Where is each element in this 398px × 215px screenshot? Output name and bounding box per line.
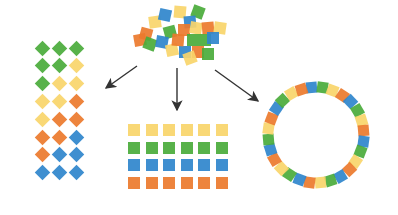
grid-tile	[216, 124, 228, 136]
grid-tile	[198, 177, 210, 189]
diagram-canvas	[0, 0, 398, 215]
grid-tile	[181, 177, 193, 189]
arrow	[215, 70, 258, 101]
grid-tile	[181, 142, 193, 154]
grid-tile	[146, 177, 158, 189]
ring-tile	[314, 177, 326, 189]
grid-tile	[216, 177, 228, 189]
grid-tile	[216, 159, 228, 171]
grid-tile	[181, 124, 193, 136]
grid-tile	[128, 142, 140, 154]
pile-square	[207, 32, 219, 44]
grid-tile	[146, 142, 158, 154]
grid-tile	[163, 177, 175, 189]
grid-tile	[128, 124, 140, 136]
pile-square	[158, 8, 172, 22]
pile-square	[171, 33, 184, 46]
pile-square	[202, 48, 214, 60]
pile-square	[187, 34, 199, 46]
grid-tile	[216, 142, 228, 154]
grid-tile	[198, 124, 210, 136]
arrow	[106, 66, 137, 88]
grid-tile	[181, 159, 193, 171]
grid-tile	[198, 142, 210, 154]
grid-tile	[163, 142, 175, 154]
grid-tile	[146, 124, 158, 136]
grid-tile	[146, 159, 158, 171]
ring-tile	[262, 133, 274, 145]
grid-tile	[128, 177, 140, 189]
grid-tile	[163, 159, 175, 171]
grid-tile	[198, 159, 210, 171]
grid-tile	[163, 124, 175, 136]
grid-tile	[128, 159, 140, 171]
